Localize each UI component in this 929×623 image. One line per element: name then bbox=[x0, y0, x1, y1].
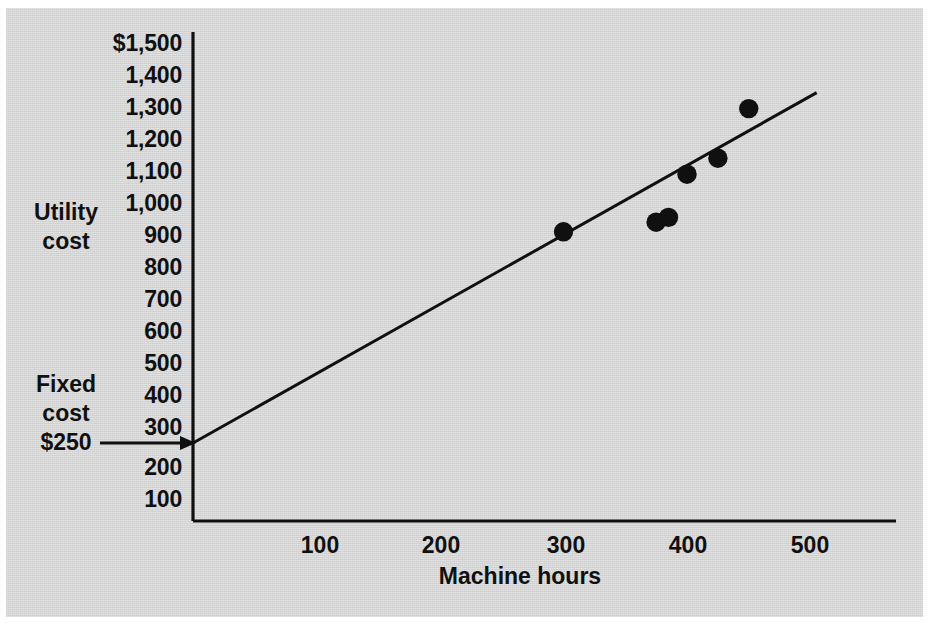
y-tick-700: 700 bbox=[60, 286, 182, 312]
data-point bbox=[677, 165, 696, 184]
regression-line bbox=[193, 93, 817, 443]
x-tick-500: 500 bbox=[765, 532, 855, 558]
y-axis-title-line-2: cost bbox=[20, 227, 112, 256]
y-tick-1400: 1,400 bbox=[60, 62, 182, 88]
y-axis-title: Utility cost bbox=[20, 198, 112, 256]
data-point bbox=[659, 208, 678, 227]
x-tick-100: 100 bbox=[275, 532, 365, 558]
x-tick-200: 200 bbox=[396, 532, 486, 558]
fixed-cost-value: $250 bbox=[20, 428, 112, 457]
y-tick-600: 600 bbox=[60, 318, 182, 344]
y-tick-800: 800 bbox=[60, 254, 182, 280]
y-tick-1300: 1,300 bbox=[60, 94, 182, 120]
data-point bbox=[708, 149, 727, 168]
y-tick-1500: $1,500 bbox=[60, 30, 182, 56]
fixed-cost-label-line-1: Fixed bbox=[20, 370, 112, 399]
y-tick-100: 100 bbox=[60, 486, 182, 512]
data-point bbox=[554, 222, 573, 241]
data-point-group bbox=[554, 99, 759, 242]
y-tick-1100: 1,100 bbox=[60, 158, 182, 184]
y-tick-1200: 1,200 bbox=[60, 126, 182, 152]
y-axis-title-line-1: Utility bbox=[20, 198, 112, 227]
x-axis-title: Machine hours bbox=[395, 563, 645, 590]
figure-root: $1,500 1,400 1,300 1,200 1,100 1,000 900… bbox=[0, 0, 929, 623]
x-tick-400: 400 bbox=[643, 532, 733, 558]
data-point bbox=[739, 99, 758, 118]
y-tick-200: 200 bbox=[60, 454, 182, 480]
fixed-cost-label-line-2: cost bbox=[20, 399, 112, 428]
x-tick-300: 300 bbox=[521, 532, 611, 558]
fixed-cost-annotation: Fixed cost $250 bbox=[20, 370, 112, 457]
